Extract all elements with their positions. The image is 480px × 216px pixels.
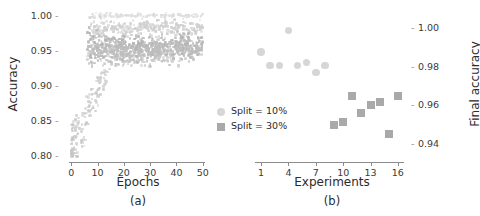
scatter-point	[89, 114, 92, 117]
panel-b-ytick-label: 0.96	[418, 100, 448, 110]
scatter-point	[109, 21, 112, 24]
scatter-point	[114, 25, 117, 28]
panel-a-ytick-mark: -	[55, 46, 58, 56]
scatter-point	[103, 71, 106, 74]
scatter-point	[102, 88, 105, 91]
panel-a-plot-area	[66, 12, 208, 160]
scatter-point	[136, 61, 139, 64]
scatter-point	[131, 30, 134, 33]
scatter-point	[192, 58, 195, 61]
panel-a-ytick-mark: -	[55, 151, 58, 161]
scatter-point	[154, 25, 157, 28]
scatter-point	[106, 52, 109, 55]
scatter-point	[153, 27, 156, 30]
scatter-point	[171, 21, 174, 24]
panel-a-x-spine	[69, 162, 206, 163]
scatter-point	[177, 64, 180, 67]
scatter-point	[156, 48, 159, 51]
scatter-point	[95, 12, 97, 14]
scatter-point	[80, 130, 83, 133]
scatter-point	[116, 16, 118, 18]
panel-a-ytick-mark: -	[55, 81, 58, 91]
scatter-point	[93, 62, 96, 65]
scatter-point	[137, 35, 140, 38]
scatter-point	[102, 64, 105, 67]
scatter-point	[92, 52, 95, 55]
scatter-point	[129, 37, 132, 40]
scatter-point	[116, 58, 119, 61]
scatter-point	[191, 22, 194, 25]
scatter-point	[171, 53, 174, 56]
scatter-point	[95, 101, 98, 104]
data-point-split-30	[339, 118, 347, 126]
panel-a-xtick-mark	[150, 163, 151, 166]
data-point-split-10	[321, 62, 329, 70]
data-point-split-30	[376, 98, 384, 106]
scatter-point	[115, 13, 117, 15]
panel-b-ytick-mark: -	[411, 23, 414, 33]
scatter-point	[93, 20, 96, 23]
scatter-point	[143, 43, 146, 46]
legend-circle-marker-icon	[217, 108, 225, 116]
data-point-split-10	[303, 59, 311, 67]
scatter-point	[185, 28, 188, 31]
scatter-point	[168, 64, 171, 67]
scatter-point	[89, 56, 92, 59]
scatter-point	[170, 30, 173, 33]
scatter-point	[70, 154, 73, 157]
scatter-point	[76, 151, 79, 154]
scatter-point	[111, 39, 114, 42]
scatter-point	[137, 15, 139, 17]
data-point-split-30	[357, 109, 365, 117]
scatter-point	[105, 20, 108, 23]
scatter-point	[147, 29, 150, 32]
scatter-point	[104, 79, 107, 82]
panel-a-xtick-mark	[124, 163, 125, 166]
scatter-point	[94, 110, 97, 113]
scatter-point	[72, 120, 75, 123]
scatter-point	[106, 26, 109, 29]
panel-a-xtick-mark	[71, 163, 72, 166]
scatter-point	[133, 15, 135, 17]
scatter-point	[101, 15, 103, 17]
scatter-point	[153, 40, 156, 43]
scatter-point	[85, 95, 88, 98]
scatter-point	[124, 52, 127, 55]
scatter-point	[74, 127, 77, 130]
scatter-point	[115, 54, 118, 57]
scatter-point	[190, 40, 193, 43]
scatter-point	[113, 21, 116, 24]
scatter-point	[89, 16, 92, 19]
scatter-point	[187, 54, 190, 57]
panel-b-xtick-mark	[261, 163, 262, 166]
data-point-split-30	[367, 101, 375, 109]
scatter-point	[149, 65, 152, 68]
scatter-point	[145, 26, 148, 29]
panel-b-caption: (b)	[252, 196, 412, 208]
scatter-point	[110, 49, 113, 52]
scatter-point	[184, 57, 187, 60]
scatter-point	[140, 64, 143, 67]
scatter-point	[146, 60, 149, 63]
scatter-point	[174, 37, 177, 40]
scatter-point	[98, 79, 101, 82]
panel-b-ytick-label: 1.00	[418, 23, 448, 33]
scatter-point	[100, 18, 103, 21]
scatter-point	[189, 46, 192, 49]
scatter-point	[91, 35, 94, 38]
scatter-point	[91, 29, 94, 32]
panel-b-ylabel: Final accuracy	[469, 29, 480, 139]
scatter-point	[166, 59, 169, 62]
panel-b-xtick-mark	[288, 163, 289, 166]
scatter-point	[83, 145, 86, 148]
scatter-point	[195, 50, 198, 53]
scatter-point	[124, 41, 127, 44]
scatter-point	[100, 21, 103, 24]
scatter-point	[99, 93, 102, 96]
data-point-split-10	[285, 27, 293, 35]
panel-a-ytick-label: 0.80	[22, 151, 52, 161]
scatter-point	[86, 31, 89, 34]
data-point-split-30	[394, 92, 402, 100]
scatter-point	[130, 64, 133, 67]
scatter-point	[118, 46, 121, 49]
